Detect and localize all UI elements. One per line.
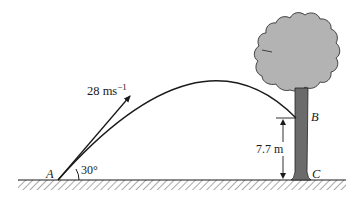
point-b-label: B: [311, 110, 319, 124]
velocity-label: 28 ms−1: [87, 82, 127, 98]
height-label: 7.7 m: [256, 142, 284, 156]
projectile-diagram: 28 ms−1 30° A B C 7.7 m: [0, 0, 353, 205]
tree-trunk: [291, 88, 311, 180]
angle-label: 30°: [81, 163, 98, 177]
point-a-label: A: [45, 167, 54, 181]
angle-arc: [76, 169, 79, 180]
point-c-label: C: [312, 167, 321, 181]
tree-crown: [254, 13, 339, 91]
ground: [18, 180, 346, 190]
